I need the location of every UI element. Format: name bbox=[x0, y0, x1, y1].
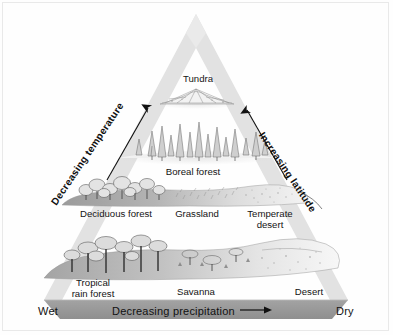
label-tundra: Tundra bbox=[168, 73, 228, 84]
label-decreasing-precipitation: Decreasing precipitation bbox=[112, 305, 235, 317]
label-deciduous-forest: Deciduous forest bbox=[68, 208, 164, 219]
label-tropical-rain-forest: Tropical rain forest bbox=[52, 277, 134, 299]
label-grassland: Grassland bbox=[162, 208, 232, 219]
label-dry: Dry bbox=[336, 305, 354, 317]
tropical-band-illustration bbox=[44, 235, 340, 280]
label-temperate-desert: Temperate desert bbox=[232, 208, 308, 230]
label-savanna: Savanna bbox=[158, 286, 234, 297]
diagram-canvas: Tundra Boreal forest Deciduous forest Gr… bbox=[0, 0, 393, 335]
label-wet: Wet bbox=[38, 305, 58, 317]
label-boreal-forest: Boreal forest bbox=[148, 166, 238, 177]
label-desert: Desert bbox=[278, 286, 340, 297]
